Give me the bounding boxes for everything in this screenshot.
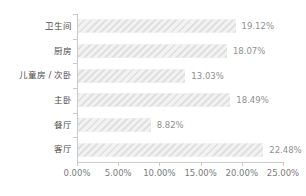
x-axis-tick — [118, 162, 119, 166]
x-axis-tick — [201, 162, 202, 166]
bar — [78, 143, 263, 156]
bar-value-label: 18.49% — [236, 96, 268, 105]
category-label: 儿童房 / 次卧 — [0, 71, 72, 80]
y-axis-tick — [73, 39, 77, 40]
category-label: 客厅 — [0, 145, 72, 154]
bar-value-label: 19.12% — [242, 22, 274, 31]
bar-container — [78, 20, 236, 33]
x-axis-tick-label: 0.00% — [63, 169, 90, 178]
bar-container — [78, 44, 227, 57]
bar-container — [78, 118, 151, 131]
bar-row: 儿童房 / 次卧13.03% — [0, 63, 306, 88]
x-axis-tick-label: 10.00% — [143, 169, 175, 178]
bar — [78, 118, 151, 131]
x-axis-tick-label: 25.00% — [267, 169, 299, 178]
bar-value-label: 22.48% — [269, 145, 301, 154]
x-axis-tick-label: 5.00% — [105, 169, 132, 178]
bar-container — [78, 143, 263, 156]
x-axis-tick — [283, 162, 284, 166]
y-axis-tick — [73, 88, 77, 89]
x-axis-tick-label: 20.00% — [226, 169, 258, 178]
category-label: 餐厅 — [0, 121, 72, 130]
bar — [78, 94, 230, 107]
y-axis-tick — [73, 113, 77, 114]
category-label: 卫生间 — [0, 22, 72, 31]
category-label: 主卧 — [0, 96, 72, 105]
bar-container — [78, 69, 185, 82]
bar — [78, 69, 185, 82]
bar-row: 主卧18.49% — [0, 88, 306, 113]
y-axis-tick — [73, 14, 77, 15]
bar-value-label: 18.07% — [233, 47, 265, 56]
x-axis-tick-label: 15.00% — [184, 169, 216, 178]
bar-row: 卫生间19.12% — [0, 14, 306, 39]
y-axis-tick — [73, 137, 77, 138]
x-axis-tick — [77, 162, 78, 166]
x-axis-tick — [159, 162, 160, 166]
bar-row: 餐厅8.82% — [0, 113, 306, 138]
bar-container — [78, 94, 230, 107]
x-axis-tick — [242, 162, 243, 166]
bar-rows: 卫生间19.12%厨房18.07%儿童房 / 次卧13.03%主卧18.49%餐… — [0, 14, 306, 162]
y-axis-tick — [73, 63, 77, 64]
bar-row: 客厅22.48% — [0, 137, 306, 162]
bar — [78, 44, 227, 57]
bar-value-label: 13.03% — [191, 71, 223, 80]
x-axis-tick-labels: 0.00%5.00%10.00%15.00%20.00%25.00% — [0, 169, 306, 183]
category-label: 厨房 — [0, 47, 72, 56]
bar-chart: 卫生间19.12%厨房18.07%儿童房 / 次卧13.03%主卧18.49%餐… — [0, 0, 306, 196]
bar-value-label: 8.82% — [157, 121, 184, 130]
bar — [78, 20, 236, 33]
bar-row: 厨房18.07% — [0, 39, 306, 64]
